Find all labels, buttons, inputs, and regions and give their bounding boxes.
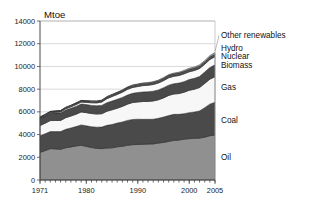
- series-label-gas: Gas: [221, 83, 236, 92]
- energy-supply-area-chart: 02000400060008000100001200014000 1971198…: [0, 0, 315, 217]
- series-label-biomass: Biomass: [221, 61, 252, 70]
- series-label-oil: Oil: [221, 153, 231, 162]
- y-tick-label-0: 0: [31, 176, 35, 185]
- y-tick-label-6000: 6000: [19, 107, 35, 116]
- series-label-coal: Coal: [221, 116, 238, 125]
- y-tick-label-2000: 2000: [19, 153, 35, 162]
- y-axis-unit-label: Mtoe: [44, 9, 65, 20]
- x-tick-label-2000: 2000: [181, 186, 197, 195]
- x-tick-label-1980: 1980: [78, 186, 94, 195]
- y-tick-label-8000: 8000: [19, 85, 35, 94]
- chart-canvas: 02000400060008000100001200014000 1971198…: [0, 0, 315, 217]
- y-tick-label-4000: 4000: [19, 130, 35, 139]
- x-tick-label-1971: 1971: [32, 186, 48, 195]
- series-label-other-renewables: Other renewables: [221, 31, 286, 40]
- y-tick-label-10000: 10000: [14, 62, 35, 71]
- y-tick-label-14000: 14000: [14, 17, 35, 26]
- x-tick-label-2005: 2005: [207, 186, 223, 195]
- y-tick-label-12000: 12000: [14, 39, 35, 48]
- x-tick-label-1990: 1990: [130, 186, 146, 195]
